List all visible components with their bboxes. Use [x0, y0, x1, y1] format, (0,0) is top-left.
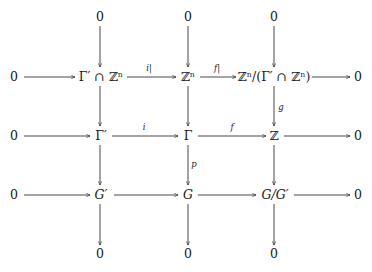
- label-p: p: [191, 160, 196, 169]
- node-gamma-prime-cap-zn: Γ′ ∩ ℤⁿ: [79, 71, 123, 84]
- node-bottom-0-col3: 0: [270, 248, 278, 261]
- label-f-restricted: f|: [214, 64, 220, 73]
- commutative-diagram: 0 0 0 0 Γ′ ∩ ℤⁿ ℤⁿ ℤⁿ/(Γ′ ∩ ℤⁿ) 0 0 Γ′ Γ…: [0, 0, 372, 272]
- node-bottom-0-col2: 0: [184, 248, 192, 261]
- node-row3-right-0: 0: [354, 189, 362, 202]
- node-zn: ℤⁿ: [181, 71, 196, 84]
- node-z: ℤ: [269, 130, 278, 143]
- label-i: i: [143, 123, 146, 132]
- label-g: g: [278, 103, 283, 112]
- node-row3-left-0: 0: [10, 189, 18, 202]
- node-g-prime: G′: [95, 189, 108, 202]
- node-top-0-col3: 0: [270, 11, 278, 24]
- label-i-restricted: i|: [146, 64, 152, 73]
- node-row2-left-0: 0: [10, 130, 18, 143]
- node-zn-quotient: ℤⁿ/(Γ′ ∩ ℤⁿ): [238, 71, 311, 84]
- node-bottom-0-col1: 0: [96, 248, 104, 261]
- node-row1-left-0: 0: [10, 71, 18, 84]
- node-gamma-prime: Γ′: [95, 130, 107, 143]
- node-gamma: Γ: [184, 130, 193, 143]
- node-g-quotient: G/G′: [261, 189, 288, 202]
- node-row1-right-0: 0: [354, 71, 362, 84]
- node-top-0-col1: 0: [96, 11, 104, 24]
- label-f: f: [230, 123, 233, 132]
- node-g: G: [183, 189, 193, 202]
- node-top-0-col2: 0: [184, 11, 192, 24]
- node-row2-right-0: 0: [354, 130, 362, 143]
